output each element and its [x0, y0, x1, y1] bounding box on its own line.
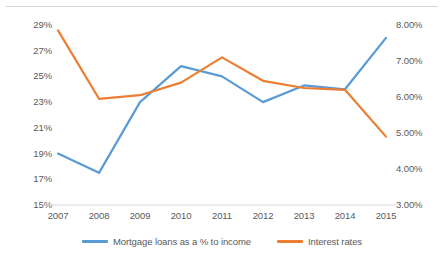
legend-label-mortgage-loans: Mortgage loans as a % to income	[113, 236, 251, 247]
legend-item-mortgage-loans[interactable]: Mortgage loans as a % to income	[82, 236, 251, 247]
legend-swatch-icon-interest-rates	[277, 240, 303, 243]
series-line	[58, 30, 386, 136]
chart-legend: Mortgage loans as a % to income Interest…	[0, 236, 444, 247]
chart-container: 15%17%19%21%23%25%27%29% 3.00%4.00%5.00%…	[0, 0, 444, 268]
legend-label-interest-rates: Interest rates	[308, 236, 362, 247]
plot-area	[0, 0, 444, 268]
legend-swatch-icon-mortgage-loans	[82, 240, 108, 243]
legend-item-interest-rates[interactable]: Interest rates	[277, 236, 362, 247]
